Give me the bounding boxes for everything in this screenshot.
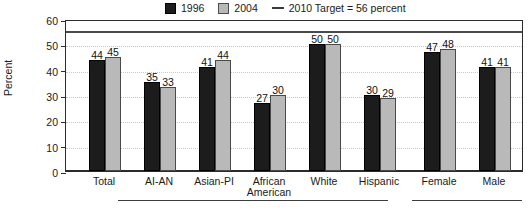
group-rule-race-ethnicity xyxy=(118,200,388,201)
bar-value-asian-pi-1996: 41 xyxy=(201,57,213,68)
x-label-white: White xyxy=(296,176,352,187)
y-tick-0: 0 xyxy=(52,167,66,179)
y-tick-mark xyxy=(61,71,66,72)
y-tick-50: 50 xyxy=(46,40,66,52)
x-label-hispanic: Hispanic xyxy=(351,176,407,187)
bar-male-2004: 41 xyxy=(495,67,511,171)
bar-group-male: 41 41 xyxy=(467,67,523,171)
bar-value-male-2004: 41 xyxy=(497,57,509,68)
bar-hispanic-1996: 30 xyxy=(364,95,380,171)
bar-value-female-1996: 47 xyxy=(426,42,438,53)
bar-value-hispanic-1996: 30 xyxy=(366,85,378,96)
bar-value-african-american-2004: 30 xyxy=(272,85,284,96)
legend-item-target: 2010 Target = 56 percent xyxy=(272,2,406,14)
bar-female-2004: 48 xyxy=(440,49,456,171)
y-tick-40: 40 xyxy=(46,66,66,78)
bar-value-asian-pi-2004: 44 xyxy=(217,50,229,61)
bar-value-ai-an-1996: 35 xyxy=(146,72,158,83)
y-tick-mark xyxy=(61,147,66,148)
bar-group-female: 47 48 xyxy=(412,49,468,171)
y-tick-10: 10 xyxy=(46,142,66,154)
legend-label-target: 2010 Target = 56 percent xyxy=(289,2,406,14)
y-tick-mark xyxy=(61,173,66,174)
bar-value-female-2004: 48 xyxy=(442,39,454,50)
bar-group-ai-an: 35 33 xyxy=(132,82,188,171)
legend-line-icon xyxy=(272,7,284,9)
plot-area: 60 50 40 30 20 10 0 44 xyxy=(65,20,523,172)
y-tick-60: 60 xyxy=(46,15,66,27)
bar-asian-pi-1996: 41 xyxy=(199,67,215,171)
chart-legend: 1996 2004 2010 Target = 56 percent xyxy=(165,1,420,15)
bar-group-african-american: 27 30 xyxy=(242,95,298,171)
bar-value-ai-an-2004: 33 xyxy=(162,77,174,88)
legend-label-1996: 1996 xyxy=(181,2,204,14)
y-axis-title: Percent xyxy=(2,60,14,96)
bar-white-2004: 50 xyxy=(325,44,341,171)
legend-item-2004: 2004 xyxy=(218,2,257,14)
x-label-female: Female xyxy=(411,176,467,187)
bar-total-1996: 44 xyxy=(89,60,105,171)
y-tick-30: 30 xyxy=(46,91,66,103)
bar-value-african-american-1996: 27 xyxy=(256,93,268,104)
legend-swatch-2004 xyxy=(218,3,229,14)
bar-ai-an-2004: 33 xyxy=(160,87,176,171)
bar-african-american-1996: 27 xyxy=(254,103,270,171)
bar-male-1996: 41 xyxy=(479,67,495,171)
bar-hispanic-2004: 29 xyxy=(380,98,396,171)
legend-label-2004: 2004 xyxy=(234,2,257,14)
bar-group-total: 44 45 xyxy=(77,57,133,171)
bar-african-american-2004: 30 xyxy=(270,95,286,171)
bar-chart: 1996 2004 2010 Target = 56 percent Perce… xyxy=(0,0,531,217)
bar-value-hispanic-2004: 29 xyxy=(382,88,394,99)
bar-value-white-2004: 50 xyxy=(327,34,339,45)
bar-value-male-1996: 41 xyxy=(481,57,493,68)
y-tick-mark xyxy=(61,46,66,47)
group-rule-sex xyxy=(412,200,522,201)
bar-ai-an-1996: 35 xyxy=(144,82,160,171)
bar-value-white-1996: 50 xyxy=(311,34,323,45)
bar-value-total-1996: 44 xyxy=(91,50,103,61)
bar-total-2004: 45 xyxy=(105,57,121,171)
bar-value-total-2004: 45 xyxy=(107,47,119,58)
target-reference-line xyxy=(66,31,522,33)
y-tick-mark xyxy=(61,122,66,123)
bar-asian-pi-2004: 44 xyxy=(215,60,231,171)
x-label-male: Male xyxy=(466,176,522,187)
bar-white-1996: 50 xyxy=(309,44,325,171)
y-tick-20: 20 xyxy=(46,116,66,128)
bar-group-white: 50 50 xyxy=(297,44,353,171)
bar-group-asian-pi: 41 44 xyxy=(187,60,243,171)
legend-swatch-1996 xyxy=(165,3,176,14)
x-label-asian-pi: Asian-PI xyxy=(186,176,242,187)
bar-group-hispanic: 30 29 xyxy=(352,95,408,171)
x-label-african-american: African American xyxy=(241,176,297,198)
x-label-total: Total xyxy=(76,176,132,187)
y-tick-mark xyxy=(61,21,66,22)
bar-female-1996: 47 xyxy=(424,52,440,171)
legend-item-1996: 1996 xyxy=(165,2,204,14)
y-tick-mark xyxy=(61,97,66,98)
x-label-ai-an: AI-AN xyxy=(131,176,187,187)
